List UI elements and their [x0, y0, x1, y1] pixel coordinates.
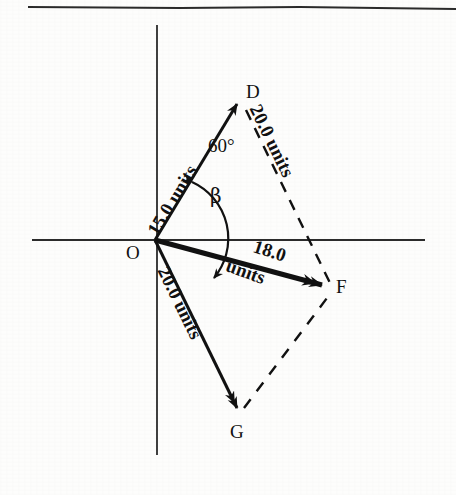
angle-label-beta: β — [210, 186, 222, 206]
construction-line-gf — [244, 298, 327, 408]
point-label-d: D — [246, 82, 260, 101]
vector-diagram-svg — [0, 0, 456, 495]
page-top-border — [28, 7, 456, 9]
point-label-f: F — [336, 277, 347, 296]
point-label-o: O — [126, 243, 140, 262]
point-label-g: G — [230, 422, 244, 441]
diagram-page: D F G O 60° β 15.0 units 20.0 units 20.0… — [0, 0, 456, 495]
angle-label-60: 60° — [208, 136, 235, 155]
